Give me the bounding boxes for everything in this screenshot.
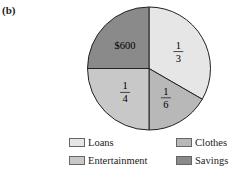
svg-text:6: 6: [163, 99, 168, 110]
legend-swatch-entertainment: [69, 156, 85, 165]
legend-item-entertainment: Entertainment: [69, 155, 147, 166]
legend-item-loans: Loans: [69, 137, 114, 148]
legend-swatch-savings: [176, 156, 192, 165]
legend-item-savings: Savings: [176, 155, 228, 166]
svg-text:4: 4: [122, 93, 128, 104]
legend-swatch-clothes: [176, 138, 192, 147]
pie-slices: [88, 7, 211, 130]
pie-chart: 131614$600: [0, 0, 237, 178]
legend-item-clothes: Clothes: [176, 137, 227, 148]
legend-label-savings: Savings: [195, 155, 228, 166]
pie-label-savings: $600: [115, 40, 136, 51]
pie-slice-savings: [88, 7, 150, 69]
legend-label-entertainment: Entertainment: [88, 155, 147, 166]
svg-text:$600: $600: [115, 40, 136, 51]
svg-text:1: 1: [176, 40, 181, 51]
svg-text:1: 1: [122, 80, 127, 91]
legend-label-loans: Loans: [88, 137, 114, 148]
legend-label-clothes: Clothes: [195, 137, 227, 148]
pie-slice-entertainment: [88, 69, 150, 131]
svg-text:1: 1: [163, 86, 168, 97]
legend-swatch-loans: [69, 138, 85, 147]
svg-text:3: 3: [176, 53, 181, 64]
